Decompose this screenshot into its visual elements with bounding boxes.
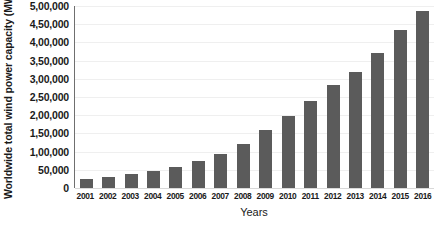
y-axis-tick-label: 2,00,000 bbox=[30, 110, 69, 121]
y-axis-tick-label: 4,00,000 bbox=[30, 37, 69, 48]
y-axis-tick-labels: 050,0001,00,0001,50,0002,00,0002,50,0003… bbox=[16, 6, 72, 188]
bar[interactable] bbox=[214, 154, 227, 188]
x-axis-tick-label: 2016 bbox=[412, 189, 435, 203]
bar-slot bbox=[120, 6, 142, 188]
bar-slot bbox=[232, 6, 254, 188]
bar[interactable] bbox=[237, 144, 250, 188]
bar[interactable] bbox=[416, 11, 429, 188]
bar[interactable] bbox=[147, 171, 160, 188]
bar[interactable] bbox=[259, 130, 272, 188]
bar-slot bbox=[75, 6, 97, 188]
y-axis-title: Worldwide total wind power capacity (MW) bbox=[0, 0, 16, 190]
bar[interactable] bbox=[282, 116, 295, 188]
bar-slot bbox=[367, 6, 389, 188]
bar-slot bbox=[142, 6, 164, 188]
y-axis-tick-label: 1,50,000 bbox=[30, 128, 69, 139]
bar-slot bbox=[187, 6, 209, 188]
y-axis-tick-label: 2,50,000 bbox=[30, 92, 69, 103]
bar-slot bbox=[344, 6, 366, 188]
x-axis-tick-label: 2004 bbox=[142, 189, 165, 203]
x-axis-tick-label: 2012 bbox=[322, 189, 345, 203]
x-axis-tick-label: 2005 bbox=[164, 189, 187, 203]
bar-series bbox=[75, 6, 434, 188]
bar-slot bbox=[255, 6, 277, 188]
x-axis-tick-label: 2007 bbox=[209, 189, 232, 203]
bar[interactable] bbox=[102, 177, 115, 188]
bar[interactable] bbox=[304, 101, 317, 188]
bar[interactable] bbox=[169, 167, 182, 188]
x-axis-tick-label: 2010 bbox=[277, 189, 300, 203]
x-axis-tick-label: 2014 bbox=[367, 189, 390, 203]
y-axis-tick-label: 3,50,000 bbox=[30, 55, 69, 66]
y-axis-tick-label: 0 bbox=[63, 183, 69, 194]
wind-power-capacity-chart: Worldwide total wind power capacity (MW)… bbox=[0, 0, 436, 232]
y-axis-tick-label: 5,00,000 bbox=[30, 1, 69, 12]
x-axis-title: Years bbox=[74, 206, 434, 218]
bar[interactable] bbox=[192, 161, 205, 188]
x-axis-tick-label: 2002 bbox=[97, 189, 120, 203]
bar-slot bbox=[210, 6, 232, 188]
bar[interactable] bbox=[371, 53, 384, 188]
bar[interactable] bbox=[80, 179, 93, 188]
bar[interactable] bbox=[349, 72, 362, 188]
x-axis-tick-label: 2006 bbox=[187, 189, 210, 203]
bar-slot bbox=[97, 6, 119, 188]
x-axis-tick-label: 2008 bbox=[232, 189, 255, 203]
bar-slot bbox=[412, 6, 434, 188]
y-axis-tick-label: 4,50,000 bbox=[30, 19, 69, 30]
y-axis-tick-label: 1,00,000 bbox=[30, 146, 69, 157]
x-axis-tick-label: 2015 bbox=[389, 189, 412, 203]
bar-slot bbox=[389, 6, 411, 188]
bar[interactable] bbox=[125, 174, 138, 188]
y-axis-tick-label: 50,000 bbox=[38, 165, 69, 176]
bar-slot bbox=[165, 6, 187, 188]
bar-slot bbox=[322, 6, 344, 188]
x-axis-tick-label: 2011 bbox=[299, 189, 322, 203]
bar-slot bbox=[277, 6, 299, 188]
bar-slot bbox=[299, 6, 321, 188]
y-axis-title-text: Worldwide total wind power capacity (MW) bbox=[2, 0, 14, 199]
x-axis-tick-label: 2001 bbox=[74, 189, 97, 203]
x-axis-tick-label: 2013 bbox=[344, 189, 367, 203]
x-axis-tick-label: 2003 bbox=[119, 189, 142, 203]
x-axis-tick-label: 2009 bbox=[254, 189, 277, 203]
plot-area bbox=[74, 6, 434, 188]
y-axis-tick-label: 3,00,000 bbox=[30, 74, 69, 85]
bar[interactable] bbox=[394, 30, 407, 188]
x-axis-tick-labels: 2001200220032004200520062007200820092010… bbox=[74, 189, 434, 203]
bar[interactable] bbox=[327, 85, 340, 188]
